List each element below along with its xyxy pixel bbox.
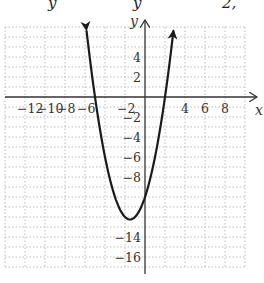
y-tick-label: −6: [123, 150, 141, 165]
y-axis-label: y: [129, 13, 139, 29]
y-tick-label: −14: [115, 230, 141, 245]
parabola-plot: −12−10−8−6−2468 42−2−4−6−8−14−16 x y: [0, 0, 264, 283]
header-text-fragment: y: [133, 0, 141, 12]
x-tick-label: 4: [181, 101, 189, 116]
y-tick-label: −2: [123, 110, 141, 125]
header-text-fragment: 2,: [222, 0, 236, 12]
y-tick-label: −16: [115, 250, 141, 265]
y-tick-label: 2: [133, 70, 141, 85]
x-axis-label: x: [255, 102, 263, 118]
y-tick-labels: 42−2−4−6−8−14−16: [115, 50, 141, 265]
graph-figure: y y 2, −12−10−8−6−2468 42−2−4−6−8−14−16 …: [0, 0, 264, 283]
y-tick-label: −8: [123, 170, 141, 185]
x-tick-label: 6: [201, 101, 209, 116]
x-tick-label: −8: [57, 101, 75, 116]
y-tick-label: −4: [123, 130, 141, 145]
x-tick-label: 8: [221, 101, 229, 116]
x-tick-label: −6: [77, 101, 95, 116]
y-tick-label: 4: [133, 50, 141, 65]
header-text-fragment: y: [48, 0, 56, 12]
